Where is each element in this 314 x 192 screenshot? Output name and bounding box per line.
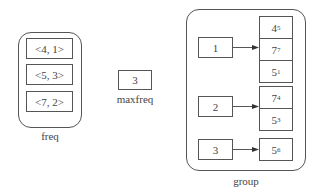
arrowhead-icon: [252, 104, 259, 109]
pointer-arrows: [0, 0, 314, 192]
arrowhead-icon: [252, 45, 259, 50]
group-label: group: [186, 175, 306, 187]
arrowhead-icon: [252, 147, 259, 152]
